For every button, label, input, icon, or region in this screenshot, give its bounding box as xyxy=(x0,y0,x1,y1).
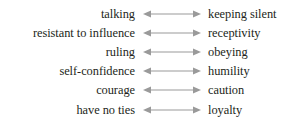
left-term: courage xyxy=(0,83,140,97)
pair-row: talking keeping silent xyxy=(0,4,306,23)
left-term: resistant to influence xyxy=(0,26,140,40)
right-term: obeying xyxy=(204,45,306,59)
right-term: loyalty xyxy=(204,103,306,117)
double-headed-arrow-icon xyxy=(140,7,204,21)
right-term: humility xyxy=(204,64,306,78)
pair-row: have no ties loyalty xyxy=(0,100,306,119)
double-headed-arrow-icon xyxy=(140,83,204,97)
double-headed-arrow-icon xyxy=(140,64,204,78)
pair-row: ruling obeying xyxy=(0,42,306,61)
double-headed-arrow-icon xyxy=(140,103,204,117)
right-term: caution xyxy=(204,83,306,97)
double-headed-arrow-icon xyxy=(140,26,204,40)
double-headed-arrow-icon xyxy=(140,45,204,59)
left-term: ruling xyxy=(0,45,140,59)
opposing-pairs-diagram: talking keeping silent resistant to infl… xyxy=(0,0,306,139)
left-term: have no ties xyxy=(0,103,140,117)
right-term: keeping silent xyxy=(204,7,306,21)
pair-row: self-confidence humility xyxy=(0,61,306,80)
pair-row: resistant to influence receptivity xyxy=(0,23,306,42)
pair-row: courage caution xyxy=(0,80,306,99)
left-term: talking xyxy=(0,7,140,21)
left-term: self-confidence xyxy=(0,64,140,78)
right-term: receptivity xyxy=(204,26,306,40)
